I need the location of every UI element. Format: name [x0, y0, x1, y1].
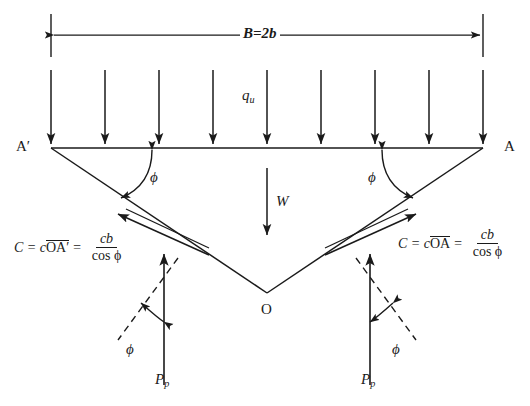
surcharge-load-arrows — [51, 70, 483, 144]
cohesion-left-equals: = — [72, 241, 81, 255]
weight-label: W — [276, 194, 289, 209]
passive-pressure-label-left: Pp — [155, 372, 169, 389]
phi-label-bottom-left: ϕ — [126, 342, 134, 357]
wedge-diagram-svg — [0, 0, 530, 406]
cohesion-force-right-tail — [325, 209, 408, 248]
cohesion-left-lhs: C = c — [14, 241, 46, 255]
cohesion-right-segment: OA — [430, 236, 450, 251]
passive-symbol-right: P — [361, 371, 370, 387]
normal-dashed-line-left — [118, 258, 178, 340]
cohesion-left-segment: OA′ — [46, 240, 69, 255]
passive-symbol-left: P — [155, 371, 164, 387]
normal-dashed-line-right — [356, 258, 416, 340]
point-label-right: A — [504, 139, 515, 154]
passive-subscript-left: p — [164, 378, 169, 389]
cohesion-force-left-arrow — [118, 214, 209, 255]
point-label-left: A′ — [16, 139, 30, 154]
cohesion-right-equals: = — [453, 237, 462, 251]
passive-pressure-label-right: Pp — [361, 372, 375, 389]
passive-subscript-right: p — [370, 378, 375, 389]
figure-canvas: B=2b qu A′ A ϕ ϕ W C = cOA′ = cb cos ϕ C… — [0, 0, 530, 406]
surcharge-subscript: u — [250, 94, 255, 105]
phi-label-top-left: ϕ — [150, 170, 158, 185]
cohesion-right-fraction: cb cos ϕ — [469, 228, 507, 259]
wedge-face-left — [51, 148, 267, 293]
cohesion-force-left-tail — [126, 209, 209, 248]
dimension-label: B=2b — [240, 26, 280, 41]
cohesion-right-numerator: cb — [477, 228, 498, 244]
phi-arc-bottom-right — [370, 303, 393, 322]
point-label-apex: O — [261, 302, 272, 317]
phi-arc-top-right — [382, 150, 413, 198]
cohesion-right-denominator: cos ϕ — [469, 244, 507, 259]
phi-arc-top-left — [121, 150, 152, 198]
cohesion-left-numerator: cb — [96, 232, 117, 248]
cohesion-equation-right: C = cOA = cb cos ϕ — [398, 228, 506, 259]
cohesion-left-fraction: cb cos ϕ — [88, 232, 126, 263]
cohesion-left-denominator: cos ϕ — [88, 248, 126, 263]
surcharge-symbol: q — [242, 87, 250, 103]
cohesion-right-lhs: C = c — [398, 237, 430, 251]
phi-arc-bottom-left — [141, 303, 164, 322]
surcharge-label: qu — [242, 88, 255, 105]
cohesion-equation-left: C = cOA′ = cb cos ϕ — [14, 232, 125, 263]
phi-label-top-right: ϕ — [368, 170, 376, 185]
phi-label-bottom-right: ϕ — [392, 342, 400, 357]
